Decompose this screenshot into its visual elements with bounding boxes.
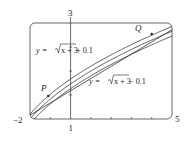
- curve-upper: [29, 26, 173, 115]
- y-min-label: 1: [69, 123, 74, 133]
- upper-label-prefix: y =: [35, 46, 47, 55]
- curve-middle: [29, 31, 173, 120]
- lower-label-suffix: − 0.1: [129, 77, 146, 86]
- curve-lower: [29, 36, 173, 125]
- upper-curve-label: y = x + 3 + 0.1: [35, 44, 93, 55]
- point-p-dot: [47, 95, 49, 97]
- point-q-dot: [151, 33, 153, 35]
- point-p-label: P: [40, 83, 47, 93]
- x-min-label: −2: [13, 115, 23, 125]
- curves-group: [29, 26, 173, 125]
- lower-label-prefix: y =: [88, 77, 100, 86]
- y-max-label: 3: [68, 8, 73, 18]
- x-max-label: 5: [175, 114, 180, 124]
- plot-frame: [30, 23, 172, 119]
- secant-line-pq: [30, 30, 172, 115]
- lower-curve-label: y = x + 3 − 0.1: [88, 75, 146, 86]
- graph-figure: 3 1 −2 5 P Q y = x + 3 + 0.1 y = x + 3 −…: [0, 0, 191, 141]
- point-q-label: Q: [135, 23, 142, 33]
- upper-label-suffix: + 0.1: [76, 46, 93, 55]
